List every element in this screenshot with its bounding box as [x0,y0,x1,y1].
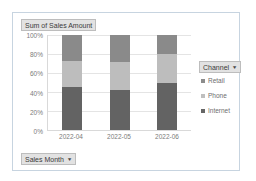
row-field-button[interactable]: Sales Month ▼ [21,153,76,165]
y-axis-tick: 100% [26,32,43,39]
legend-item[interactable]: Phone [201,92,249,100]
bar-slot [96,35,144,130]
legend-item[interactable]: Retail [201,77,249,85]
y-axis-tick: 40% [30,89,43,96]
plot-area[interactable] [47,35,191,131]
value-field-label: Sum of Sales Amount [25,21,92,30]
y-axis-tick: 60% [30,70,43,77]
stacked-bar[interactable] [157,35,177,130]
x-axis-tick: 2022-06 [143,133,191,141]
bar-segment-retail[interactable] [62,35,82,61]
legend-item-label: Phone [208,92,227,100]
legend-swatch-internet-icon [201,109,205,113]
bar-slot [48,35,96,130]
bar-segment-phone[interactable] [157,54,177,83]
value-field-button[interactable]: Sum of Sales Amount [21,19,96,31]
stacked-bar[interactable] [110,35,130,130]
bar-segment-internet[interactable] [157,83,177,131]
y-axis-tick: 0% [34,128,43,135]
legend-field-button[interactable]: Channel ▼ [199,61,241,73]
legend-item-label: Internet [208,107,230,115]
legend-field-label: Channel [203,63,229,72]
legend-swatch-retail-icon [201,79,205,83]
x-axis-tick: 2022-04 [47,133,95,141]
bar-segment-retail[interactable] [157,35,177,54]
stacked-bar[interactable] [62,35,82,130]
bar-slot [143,35,191,130]
y-axis-tick: 20% [30,108,43,115]
bar-segment-retail[interactable] [110,35,130,62]
legend-item[interactable]: Internet [201,107,249,115]
chart-legend: RetailPhoneInternet [201,77,249,122]
chevron-down-icon: ▼ [232,65,238,70]
bar-segment-phone[interactable] [110,62,130,91]
bar-segment-phone[interactable] [62,61,82,88]
chevron-down-icon: ▼ [67,157,73,162]
legend-swatch-phone-icon [201,94,205,98]
bars-layer [48,35,191,130]
plot-wrap: 100%80%60%40%20%0% 2022-042022-052022-06 [21,35,193,153]
x-axis-tick: 2022-05 [95,133,143,141]
pivot-chart-frame[interactable]: Sum of Sales Amount 100%80%60%40%20%0% 2… [12,12,240,171]
row-field-label: Sales Month [25,155,64,164]
bar-segment-internet[interactable] [62,87,82,130]
y-axis-tick: 80% [30,51,43,58]
bar-segment-internet[interactable] [110,90,130,130]
x-axis: 2022-042022-052022-06 [47,133,191,141]
y-axis: 100%80%60%40%20%0% [21,35,45,131]
legend-item-label: Retail [208,77,225,85]
